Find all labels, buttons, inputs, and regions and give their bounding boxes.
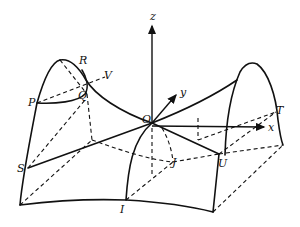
point-U-label: U [218, 157, 228, 170]
dashed-right-bottom-diag [213, 145, 283, 212]
dashed-U-right [219, 145, 283, 154]
front-arch-curve [126, 123, 152, 200]
x-axis [152, 126, 264, 127]
dashed-Q-down [87, 94, 92, 140]
point-S-label: S [17, 162, 25, 175]
origin-label: O [142, 113, 151, 126]
x-axis-label: x [268, 121, 275, 134]
point-J-label: J [170, 156, 177, 169]
dashed-J-U [173, 154, 219, 162]
dashed-I-J [126, 162, 173, 200]
point-V-label: V [104, 69, 113, 82]
front-bottom-curve [20, 200, 213, 212]
dashed-bottom-left-diag [20, 140, 92, 205]
z-axis-label: z [149, 10, 156, 23]
point-R-label: R [78, 54, 87, 67]
point-I-label: I [119, 203, 125, 216]
left-boundary-curve [20, 60, 60, 205]
point-Q-label: Q [78, 89, 87, 102]
right-peak-curve [225, 63, 283, 155]
y-axis-label: y [179, 86, 187, 99]
saddle-diagram: z y x O P Q R V S T U I J [0, 0, 300, 227]
edge-O-U [152, 123, 219, 154]
right-saddle-curve [152, 80, 237, 123]
point-P-label: P [27, 96, 36, 109]
point-T-label: T [276, 104, 285, 117]
